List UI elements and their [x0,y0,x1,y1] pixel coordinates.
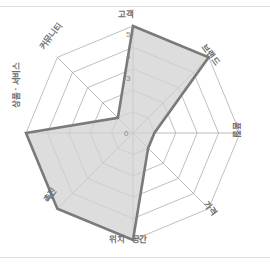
radial-tick-label-4: 4 [126,53,130,61]
radar-chart-figure: 고객브랜드품질가격위치 · 공간촉진상품 · 서비스커뮤니티 5430 [0,0,270,265]
radial-tick-label-5: 5 [126,31,130,39]
axis-label-2: 품질 [233,122,242,138]
axis-label-6: 상품 · 서비스 [12,62,21,108]
radial-tick-label-0: 0 [124,130,128,138]
axis-label-4: 위치 · 공간 [109,235,147,244]
radial-tick-label-3: 3 [126,75,130,83]
axis-label-0: 고객 [118,10,134,19]
